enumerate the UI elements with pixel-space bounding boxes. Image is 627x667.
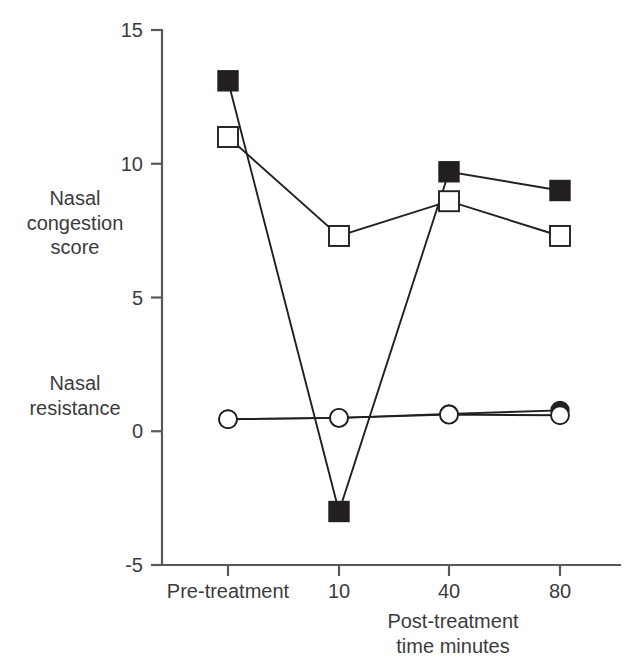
y-tick-label-2: 5 <box>132 287 143 309</box>
x-tick-label-0: Pre-treatment <box>167 580 290 602</box>
plot-area: 151050-5Pre-treatment104080 <box>0 0 627 667</box>
data-series <box>218 71 570 522</box>
marker-open-circle-3 <box>551 406 569 424</box>
y-tick-label-0: 15 <box>121 19 143 41</box>
x-tick-label-3: 80 <box>549 580 571 602</box>
x-tick-label-1: 10 <box>328 580 350 602</box>
marker-open-square-3 <box>550 226 570 246</box>
nasal-congestion-resistance-chart: 151050-5Pre-treatment104080 Nasal conges… <box>0 0 627 667</box>
marker-filled-square-0 <box>218 71 238 91</box>
axes <box>151 30 620 576</box>
series-line-1 <box>228 137 560 236</box>
marker-open-circle-0 <box>219 410 237 428</box>
y-tick-label-1: 10 <box>121 153 143 175</box>
marker-open-circle-2 <box>440 406 458 424</box>
marker-open-square-1 <box>329 226 349 246</box>
x-tick-label-2: 40 <box>438 580 460 602</box>
y-axis-title-resistance: Nasal resistance <box>0 371 150 420</box>
marker-filled-square-3 <box>550 181 570 201</box>
series-line-0 <box>228 81 560 512</box>
y-axis-title-congestion: Nasal congestion score <box>0 186 150 260</box>
marker-open-square-2 <box>439 191 459 211</box>
marker-open-square-0 <box>218 127 238 147</box>
y-tick-label-4: -5 <box>125 554 143 576</box>
marker-open-circle-1 <box>330 409 348 427</box>
marker-filled-square-2 <box>439 162 459 182</box>
x-axis-title: Post-treatment time minutes <box>322 609 584 658</box>
series-line-3 <box>228 415 560 420</box>
marker-filled-square-1 <box>329 502 349 522</box>
y-tick-label-3: 0 <box>132 420 143 442</box>
